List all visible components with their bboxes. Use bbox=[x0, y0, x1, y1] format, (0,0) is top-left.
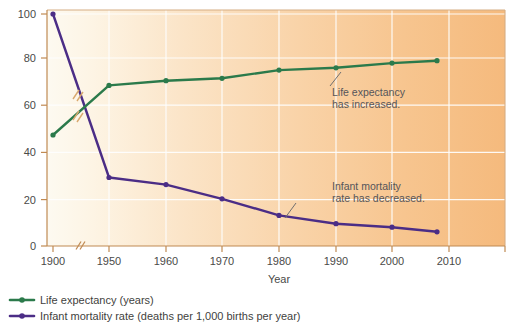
y-tick-label-100: 100 bbox=[18, 8, 36, 20]
chart-figure: 0 20 40 60 80 100 1900 1950 1960 1970 19… bbox=[0, 0, 532, 331]
y-axis-ticks bbox=[41, 14, 47, 246]
y-tick-label-80: 80 bbox=[24, 52, 36, 64]
legend-item-life-expectancy[interactable]: Life expectancy (years) bbox=[10, 294, 154, 306]
y-tick-label-20: 20 bbox=[24, 194, 36, 206]
life-expectancy-note-line1: Life expectancy bbox=[332, 86, 406, 98]
x-tick-label-1950: 1950 bbox=[97, 255, 121, 267]
x-tick-label-1970: 1970 bbox=[210, 255, 234, 267]
chart-svg: 0 20 40 60 80 100 1900 1950 1960 1970 19… bbox=[0, 0, 532, 331]
legend-label-infant-mortality: Infant mortality rate (deaths per 1,000 … bbox=[40, 310, 300, 322]
x-tick-label-1980: 1980 bbox=[267, 255, 291, 267]
infant-mortality-note-line2: rate has decreased. bbox=[332, 192, 425, 204]
legend-marker-life-expectancy bbox=[19, 297, 25, 303]
legend-label-life-expectancy: Life expectancy (years) bbox=[40, 294, 154, 306]
x-tick-label-1990: 1990 bbox=[324, 255, 348, 267]
legend-marker-infant-mortality bbox=[19, 313, 25, 319]
x-axis-title: Year bbox=[268, 273, 291, 285]
x-tick-label-2000: 2000 bbox=[380, 255, 404, 267]
infant-mortality-note-line1: Infant mortality bbox=[332, 180, 402, 192]
x-tick-label-2010: 2010 bbox=[437, 255, 461, 267]
plot-area-background bbox=[47, 10, 505, 246]
legend-item-infant-mortality[interactable]: Infant mortality rate (deaths per 1,000 … bbox=[10, 310, 300, 322]
y-tick-label-60: 60 bbox=[24, 99, 36, 111]
legend: Life expectancy (years) Infant mortality… bbox=[10, 294, 300, 322]
life-expectancy-note-line2: has increased. bbox=[332, 98, 400, 110]
y-tick-label-0: 0 bbox=[30, 240, 36, 252]
x-tick-label-1960: 1960 bbox=[154, 255, 178, 267]
y-tick-label-40: 40 bbox=[24, 146, 36, 158]
x-tick-label-1900: 1900 bbox=[41, 255, 65, 267]
x-axis-ticks bbox=[53, 246, 505, 252]
